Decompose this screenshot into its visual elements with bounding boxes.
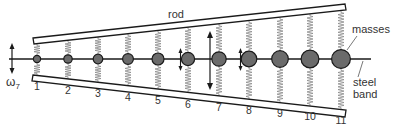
mass-number-3: 3 xyxy=(95,87,101,99)
rod-label: rod xyxy=(168,8,184,20)
mass-number-8: 8 xyxy=(246,104,252,116)
mass-number-4: 4 xyxy=(125,91,131,103)
spring-up-2 xyxy=(65,40,71,55)
spring-down-6 xyxy=(185,66,191,93)
wave-machine-diagram: ω7 rod masses steel band 1234567891011 xyxy=(0,0,393,133)
mass-8 xyxy=(241,51,257,67)
mass-number-2: 2 xyxy=(65,84,71,96)
masses-label: masses xyxy=(352,23,390,35)
mass-number-1: 1 xyxy=(34,80,40,92)
diagram-canvas: ω7 rod masses steel band 1234567891011 xyxy=(0,0,393,133)
mass-10 xyxy=(301,50,319,68)
mass-number-11: 11 xyxy=(336,114,347,126)
mass-7 xyxy=(212,52,226,66)
mass-number-7: 7 xyxy=(216,101,222,113)
spring-down-7 xyxy=(216,66,222,96)
spring-up-10 xyxy=(307,14,313,50)
spring-up-3 xyxy=(95,37,101,54)
spring-down-4 xyxy=(125,64,131,85)
spring-up-11 xyxy=(338,11,344,50)
spring-up-8 xyxy=(246,21,252,52)
spring-up-6 xyxy=(185,27,191,52)
masses-leader-line xyxy=(347,36,357,50)
mass-1 xyxy=(33,55,40,62)
steel-label: steel xyxy=(353,76,376,88)
mass-4 xyxy=(123,54,134,65)
spring-down-8 xyxy=(246,67,252,99)
spring-up-7 xyxy=(216,24,222,52)
spring-down-9 xyxy=(277,67,283,102)
spring-up-5 xyxy=(155,30,161,53)
mass-3 xyxy=(93,54,103,64)
spring-up-1 xyxy=(34,44,40,56)
mass-2 xyxy=(64,55,72,63)
spring-down-10 xyxy=(307,68,313,106)
spring-up-9 xyxy=(277,17,283,51)
omega-label: ω7 xyxy=(6,75,20,91)
spring-down-5 xyxy=(155,65,161,89)
steel-band-leader-line xyxy=(358,61,363,77)
mass-9 xyxy=(272,51,289,68)
mass-number-5: 5 xyxy=(155,94,161,106)
band-label: band xyxy=(353,88,377,100)
mass-5 xyxy=(152,53,164,65)
spring-down-3 xyxy=(95,64,101,82)
mass-number-10: 10 xyxy=(304,110,316,122)
spring-down-1 xyxy=(34,63,40,76)
spring-up-4 xyxy=(125,34,131,54)
spring-down-2 xyxy=(65,63,71,79)
mass-11 xyxy=(332,50,351,69)
spring-down-11 xyxy=(338,68,344,109)
mass-6 xyxy=(181,52,194,65)
mass-number-6: 6 xyxy=(185,98,191,110)
mass-number-9: 9 xyxy=(277,107,283,119)
